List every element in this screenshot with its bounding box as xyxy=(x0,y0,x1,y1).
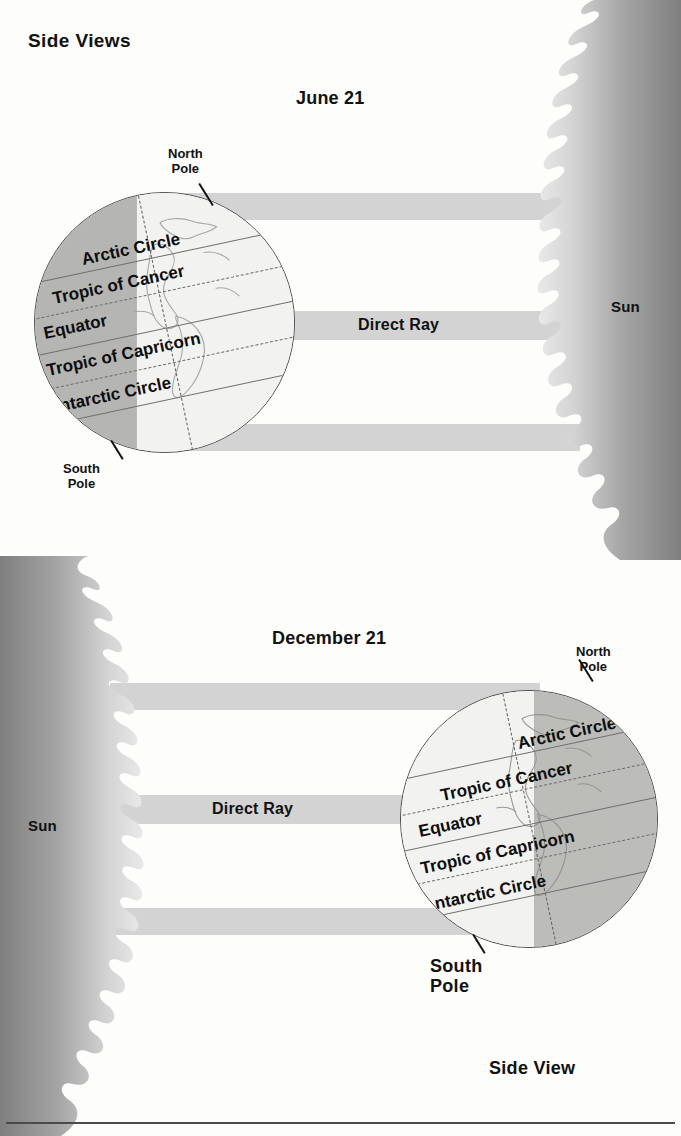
december-globe: Arctic Circle Tropic of Cancer Equator T… xyxy=(400,690,658,948)
june-south-pole-label: South Pole xyxy=(63,462,100,491)
footer-side-view-label: Side View xyxy=(489,1058,575,1078)
december-north-pole-label: North Pole xyxy=(576,645,611,674)
june-direct-ray-label: Direct Ray xyxy=(358,316,439,334)
diagram-canvas: Side Views June 21 Direct Ray Sun xyxy=(0,0,681,1136)
june-north-pole-label: North Pole xyxy=(168,147,203,176)
december-sun-label: Sun xyxy=(28,818,57,835)
june-globe: Arctic Circle Tropic of Cancer Equator T… xyxy=(34,192,295,453)
december-date-label: December 21 xyxy=(272,628,386,648)
december-south-pole-label: South Pole xyxy=(430,956,483,996)
december-direct-ray-label: Direct Ray xyxy=(212,800,293,818)
june-date-label: June 21 xyxy=(296,88,364,108)
december-sun xyxy=(0,556,153,1136)
june-sun xyxy=(528,0,681,560)
june-sun-label: Sun xyxy=(611,299,640,316)
page-title: Side Views xyxy=(28,30,131,51)
footer-rule xyxy=(6,1122,675,1124)
